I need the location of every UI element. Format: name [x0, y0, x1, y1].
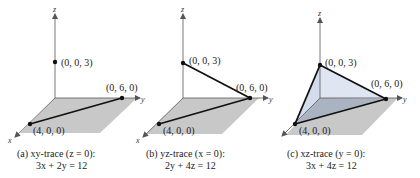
point-z-intercept [181, 61, 185, 65]
label-x-intercept: (4, 0, 0) [299, 125, 331, 137]
y-axis-label: y [402, 95, 407, 104]
point-x-intercept [293, 122, 297, 126]
x-axis-label: x [135, 136, 140, 145]
point-y-intercept [248, 96, 252, 100]
point-z-intercept [318, 63, 322, 67]
y-axis-label: y [268, 95, 273, 104]
panel-a: z y x (0, 0, 3) (0, 6, 0) (4, 0, 0) (a) … [7, 5, 145, 171]
label-y-intercept: (0, 6, 0) [371, 78, 403, 90]
label-x-intercept: (4, 0, 0) [163, 125, 195, 137]
panel-c: z y (0, 0, 3) (0, 6, 0) (4, 0, 0) (c) xz… [282, 9, 407, 171]
point-z-intercept [53, 60, 57, 64]
y-axis-label: y [140, 95, 145, 104]
z-axis-label: z [52, 5, 57, 14]
label-z-intercept: (0, 0, 3) [61, 57, 93, 69]
panel-b: z y x (0, 0, 3) (0, 6, 0) (4, 0, 0) (b) … [135, 5, 273, 171]
label-z-intercept: (0, 0, 3) [189, 55, 221, 67]
caption-line2: 3x + 4z = 12 [306, 160, 357, 171]
label-y-intercept: (0, 6, 0) [236, 82, 268, 94]
traces-figure: z y x (0, 0, 3) (0, 6, 0) (4, 0, 0) (a) … [0, 0, 420, 178]
caption-line2: 2y + 4z = 12 [165, 160, 216, 171]
z-axis-label: z [317, 9, 322, 18]
caption-line1: (a) xy-trace (z = 0): [17, 148, 95, 160]
point-y-intercept [120, 96, 124, 100]
caption-line1: (b) yz-trace (x = 0): [146, 148, 225, 160]
label-z-intercept: (0, 0, 3) [325, 57, 357, 69]
label-x-intercept: (4, 0, 0) [33, 125, 65, 137]
point-x-intercept [28, 122, 32, 126]
label-y-intercept: (0, 6, 0) [106, 82, 138, 94]
caption-line2: 3x + 2y = 12 [36, 160, 87, 171]
x-axis-label: x [7, 136, 12, 145]
caption-line1: (c) xz-trace (y = 0): [287, 148, 365, 160]
point-y-intercept [384, 97, 388, 101]
point-x-intercept [157, 122, 161, 126]
z-axis-label: z [180, 5, 185, 14]
